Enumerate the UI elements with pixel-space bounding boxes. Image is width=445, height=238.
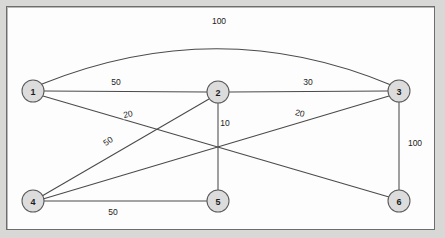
edge-weight-label-1-2: 50 <box>111 77 121 87</box>
edge-labels-layer: 1001005050202030301010505020201001005050 <box>101 16 422 217</box>
node-4[interactable]: 4 <box>22 190 44 212</box>
edge-weight-label-2-3: 30 <box>303 77 313 87</box>
node-label-2: 2 <box>215 88 220 98</box>
figure-container: 1001005050202030301010505020201001005050… <box>0 0 445 238</box>
edge-weight-label-2-4: 50 <box>101 134 115 148</box>
node-label-1: 1 <box>30 87 35 97</box>
graph-diagram: 1001005050202030301010505020201001005050… <box>0 0 445 238</box>
node-5[interactable]: 5 <box>207 190 229 212</box>
node-1[interactable]: 1 <box>22 80 44 102</box>
edge-1-3 <box>42 49 391 85</box>
node-3[interactable]: 3 <box>388 80 410 102</box>
node-2[interactable]: 2 <box>207 81 229 103</box>
edge-weight-label-1-6: 20 <box>122 108 134 120</box>
node-label-5: 5 <box>215 197 220 207</box>
edge-weight-label-3-6: 100 <box>408 138 422 148</box>
edge-1-2 <box>44 91 207 92</box>
edge-weight-label-1-3: 100 <box>212 16 226 26</box>
edge-weight-label-2-5: 10 <box>220 118 230 128</box>
edge-weight-label-3-4: 20 <box>294 107 306 119</box>
node-6[interactable]: 6 <box>388 190 410 212</box>
node-label-3: 3 <box>396 87 401 97</box>
node-label-4: 4 <box>30 197 35 207</box>
edge-2-3 <box>229 91 388 92</box>
edge-weight-label-4-5: 50 <box>108 207 118 217</box>
node-label-6: 6 <box>396 197 401 207</box>
